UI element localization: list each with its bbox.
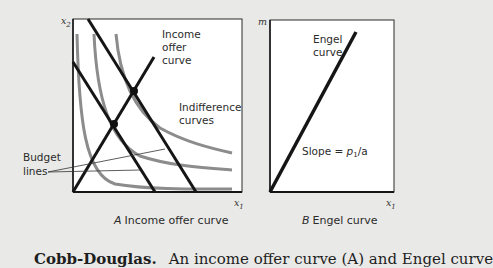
panel-b-engel-curve: m x1 Engel curve Slope = p1/a BEngel cur… [258,16,396,227]
tangency-point-2 [130,87,138,95]
budget-label-2: lines [23,165,47,177]
engel-label-2: curve [313,46,342,58]
panel-a-caption: AIncome offer curve [113,214,229,227]
income-offer-label-3: curve [162,54,191,66]
panel-b-x-axis-label: x1 [386,197,396,211]
panel-a-y-axis-label: x2 [61,15,71,29]
budget-label-1: Budget [23,151,61,163]
figure-footer-caption: Cobb-Douglas.An income offer curve (A) a… [34,250,493,268]
panel-b-caption: BEngel curve [302,214,378,227]
panel-a-income-offer-curve: x2 x1 Income offer curve Indifference cu… [23,15,244,227]
income-offer-label-1: Income [162,28,201,40]
panel-b-y-axis-label: m [258,16,267,27]
slope-label: Slope = p1/a [302,145,368,159]
income-offer-label-2: offer [162,41,187,53]
indifference-label-1: Indifference [179,101,241,113]
indifference-label-2: curves [179,114,214,126]
footer-bold-title: Cobb-Douglas. [34,250,157,268]
footer-text: An income offer curve (A) and Engel curv… [169,250,493,268]
engel-label-1: Engel [313,33,342,45]
tangency-point-1 [110,120,118,128]
panel-a-x-axis-label: x1 [234,197,244,211]
